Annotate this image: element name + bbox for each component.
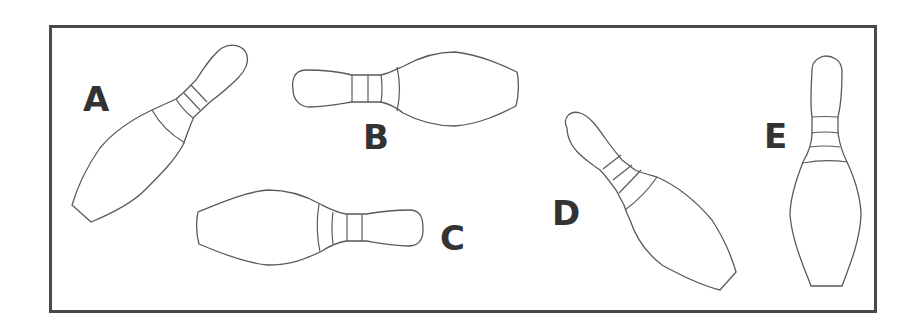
pin-a (72, 45, 248, 222)
label-b: B (363, 120, 389, 154)
pin-d (565, 112, 736, 290)
label-d: D (552, 196, 580, 230)
bowling-pins-diagram (0, 0, 922, 321)
label-c: C (440, 221, 465, 255)
pin-c (197, 190, 423, 265)
pin-b (293, 52, 519, 126)
pin-e (790, 56, 861, 286)
label-e: E (764, 119, 787, 153)
label-a: A (83, 82, 109, 116)
